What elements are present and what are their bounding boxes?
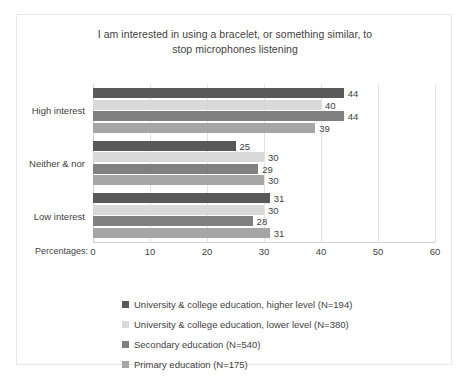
bar-row[interactable]: 39 bbox=[93, 123, 435, 133]
bar-group: Low interest31302831 bbox=[93, 189, 435, 242]
bar[interactable] bbox=[93, 152, 264, 162]
bar-row[interactable]: 40 bbox=[93, 100, 435, 110]
bar-group: Neither & nor25302930 bbox=[93, 137, 435, 190]
bar-row[interactable]: 31 bbox=[93, 193, 435, 203]
x-axis-title: Percentages: bbox=[35, 246, 88, 256]
bar[interactable] bbox=[93, 141, 236, 151]
bar[interactable] bbox=[93, 228, 270, 238]
legend-swatch-icon bbox=[122, 301, 129, 308]
chart-container: I am interested in using a bracelet, or … bbox=[16, 14, 452, 365]
category-label: Neither & nor bbox=[29, 157, 85, 168]
x-tick-label: 0 bbox=[90, 246, 95, 257]
legend-swatch-icon bbox=[122, 361, 129, 368]
bar-value-label: 31 bbox=[270, 227, 285, 238]
bar[interactable] bbox=[93, 123, 315, 133]
bar-value-label: 39 bbox=[315, 122, 330, 133]
bar-row[interactable]: 30 bbox=[93, 205, 435, 215]
x-tick-label: 10 bbox=[145, 246, 156, 257]
bar-row[interactable]: 28 bbox=[93, 216, 435, 226]
gridline bbox=[435, 84, 436, 242]
x-tick-label: 50 bbox=[373, 246, 384, 257]
x-tick-label: 30 bbox=[259, 246, 270, 257]
legend-item[interactable]: Secondary education (N=540) bbox=[122, 336, 422, 353]
plot-area: High interest44404439Neither & nor253029… bbox=[93, 84, 435, 242]
category-label: Low interest bbox=[34, 210, 85, 221]
bar-row[interactable]: 30 bbox=[93, 175, 435, 185]
bar-row[interactable]: 31 bbox=[93, 228, 435, 238]
legend-label: University & college education, higher l… bbox=[134, 299, 352, 310]
legend-item[interactable]: University & college education, higher l… bbox=[122, 296, 422, 313]
bar-value-label: 30 bbox=[264, 175, 279, 186]
legend-label: University & college education, lower le… bbox=[134, 319, 349, 330]
bar-value-label: 29 bbox=[258, 163, 273, 174]
bar-group: High interest44404439 bbox=[93, 84, 435, 137]
bar[interactable] bbox=[93, 175, 264, 185]
bar-row[interactable]: 30 bbox=[93, 152, 435, 162]
bar[interactable] bbox=[93, 193, 270, 203]
bar[interactable] bbox=[93, 216, 253, 226]
bar[interactable] bbox=[93, 205, 264, 215]
bar-value-label: 40 bbox=[321, 99, 336, 110]
bar-value-label: 25 bbox=[236, 140, 251, 151]
bar-value-label: 44 bbox=[344, 88, 359, 99]
bar[interactable] bbox=[93, 111, 344, 121]
bar[interactable] bbox=[93, 164, 258, 174]
bar-value-label: 28 bbox=[253, 216, 268, 227]
bar-row[interactable]: 44 bbox=[93, 88, 435, 98]
bar-value-label: 31 bbox=[270, 193, 285, 204]
bar[interactable] bbox=[93, 88, 344, 98]
legend-label: Primary education (N=175) bbox=[134, 359, 248, 370]
legend-item[interactable]: University & college education, lower le… bbox=[122, 316, 422, 333]
bar-value-label: 30 bbox=[264, 152, 279, 163]
chart-legend: University & college education, higher l… bbox=[122, 296, 422, 376]
x-tick-label: 20 bbox=[202, 246, 213, 257]
x-tick-label: 40 bbox=[316, 246, 327, 257]
legend-item[interactable]: Primary education (N=175) bbox=[122, 356, 422, 373]
bar-row[interactable]: 29 bbox=[93, 164, 435, 174]
legend-label: Secondary education (N=540) bbox=[134, 339, 260, 350]
bar-value-label: 44 bbox=[344, 111, 359, 122]
bar-row[interactable]: 25 bbox=[93, 141, 435, 151]
chart-title: I am interested in using a bracelet, or … bbox=[51, 27, 419, 57]
legend-swatch-icon bbox=[122, 341, 129, 348]
bar[interactable] bbox=[93, 100, 321, 110]
x-axis-ticks: 0102030405060 bbox=[93, 246, 435, 262]
legend-swatch-icon bbox=[122, 321, 129, 328]
category-label: High interest bbox=[32, 105, 85, 116]
x-tick-label: 60 bbox=[430, 246, 441, 257]
bar-value-label: 30 bbox=[264, 204, 279, 215]
x-axis-line bbox=[93, 242, 435, 243]
bar-row[interactable]: 44 bbox=[93, 111, 435, 121]
